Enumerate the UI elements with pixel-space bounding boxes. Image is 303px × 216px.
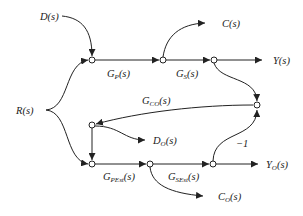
label-do: DO(s) — [152, 135, 177, 148]
edge-gco — [96, 105, 253, 124]
edge-n3-to-right — [214, 63, 257, 101]
edge-c — [163, 23, 205, 57]
node-mid-left — [89, 122, 95, 128]
edge-r-to-bottom — [46, 110, 88, 164]
node-top-2 — [160, 57, 166, 63]
label-gs: GS(s) — [176, 68, 199, 81]
node-top-3 — [211, 57, 217, 63]
label-gsest: GSEst(s) — [168, 171, 200, 184]
label-gp: GP(s) — [107, 68, 130, 81]
label-r: R(s) — [15, 105, 34, 117]
label-c: C(s) — [222, 18, 241, 30]
label-y: Y(s) — [273, 55, 290, 67]
edge-d-to-sum — [62, 16, 92, 56]
label-d: D(s) — [39, 11, 59, 23]
label-gpest: GPEst(s) — [103, 171, 135, 184]
edge-neg-feedback — [213, 110, 257, 161]
node-bottom-1 — [89, 161, 95, 167]
label-co: CO(s) — [218, 191, 242, 204]
label-gco: GCO(s) — [142, 95, 171, 108]
node-bottom-3 — [210, 161, 216, 167]
node-right — [254, 102, 260, 108]
edge-r-to-top — [46, 60, 88, 110]
node-bottom-2 — [147, 161, 153, 167]
label-neg-one: −1 — [236, 138, 248, 149]
edge-do — [95, 126, 145, 140]
node-top-sum — [89, 57, 95, 63]
signal-flow-diagram: D(s) R(s) C(s) Y(s) GP(s) GS(s) GCO(s) D… — [0, 0, 303, 216]
label-yo: YO(s) — [266, 159, 288, 172]
